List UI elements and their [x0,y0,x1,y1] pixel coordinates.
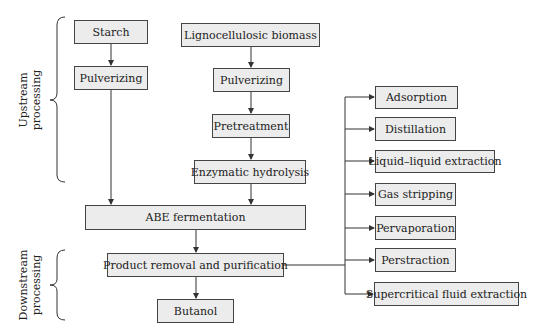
method-perstraction: Perstraction [375,248,456,272]
node-lignocellulosic-biomass: Lignocellulosic biomass [181,23,320,47]
node-butanol: Butanol [157,299,234,323]
node-product-removal: Product removal and purification [107,253,284,277]
downstream-label-line2: processing [30,245,43,325]
downstream-label: Downstream processing [17,245,43,325]
node-abe-fermentation: ABE fermentation [85,205,306,230]
method-supercritical-fluid-extraction: Supercritical fluid extraction [374,282,519,306]
node-starch: Starch [74,20,148,44]
method-distillation: Distillation [375,117,456,141]
method-gas-stripping: Gas stripping [375,183,456,206]
upstream-label: Upstream processing [17,65,43,135]
node-pulverizing-starch: Pulverizing [74,66,148,90]
node-pretreatment: Pretreatment [212,114,290,138]
downstream-label-line1: Downstream [17,245,30,325]
upstream-label-line1: Upstream [17,65,30,135]
upstream-label-line2: processing [30,65,43,135]
node-pulverizing-ligno: Pulverizing [213,68,290,92]
method-pervaporation: Pervaporation [375,216,456,240]
node-enzymatic-hydrolysis: Enzymatic hydrolysis [194,160,306,184]
method-liquid-liquid-extraction: Liquid–liquid extraction [375,150,495,173]
method-adsorption: Adsorption [375,86,458,109]
